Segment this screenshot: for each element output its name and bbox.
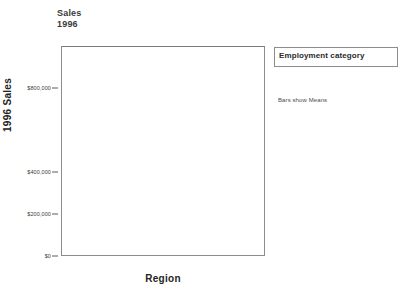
x-axis-ticks (61, 258, 265, 272)
plot-area (61, 46, 265, 256)
y-tick-mark (52, 88, 58, 89)
y-axis-ticks: $0$200,000$400,000$800,000 (0, 46, 58, 256)
y-tick-mark (52, 172, 58, 173)
y-tick-label: $800,000 (27, 85, 51, 91)
chart-title: Sales (57, 8, 82, 19)
x-axis-title: Region (145, 273, 181, 284)
legend: Employment category (274, 47, 398, 67)
chart-subtitle: 1996 (57, 19, 82, 30)
chart-footnote: Bars show Means (278, 97, 327, 103)
chart-title-block: Sales 1996 (57, 8, 82, 30)
bars-container (62, 47, 264, 255)
y-tick-label: $200,000 (27, 211, 51, 217)
y-tick-label: $400,000 (27, 169, 51, 175)
y-tick-mark (52, 214, 58, 215)
y-tick-mark (52, 256, 58, 257)
legend-title: Employment category (279, 51, 393, 60)
y-tick-label: $0 (45, 253, 51, 259)
